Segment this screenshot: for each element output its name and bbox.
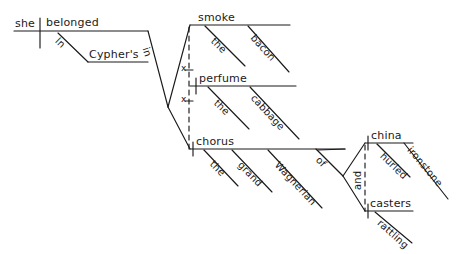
mod-bacon-slant bbox=[248, 26, 289, 72]
adj-wagnerian-slant bbox=[268, 150, 322, 208]
prep-of-descend bbox=[316, 149, 343, 176]
mod-rattling-slant bbox=[375, 212, 412, 243]
diagram-lines bbox=[0, 0, 456, 254]
art-the-smoke-slant bbox=[205, 26, 245, 66]
art-the-perfume-slant bbox=[208, 87, 249, 129]
mod-cabbage-slant bbox=[250, 87, 299, 139]
of-fork-upper-to-china bbox=[343, 143, 365, 176]
of-fork-lower-to-casters bbox=[343, 176, 365, 211]
fork-upper-to-smoke bbox=[168, 25, 190, 107]
mod-hurled-slant bbox=[377, 144, 410, 177]
prep-in-opening-slant bbox=[58, 33, 88, 62]
mod-ironstone-slant bbox=[404, 143, 448, 199]
fork-lower-to-chorus bbox=[168, 107, 190, 149]
art-the-chorus-slant bbox=[204, 150, 238, 186]
sentence-diagram-canvas: she belonged In Cypher's in x x smoke th… bbox=[0, 0, 456, 254]
prep-in-main-slant bbox=[148, 31, 168, 107]
